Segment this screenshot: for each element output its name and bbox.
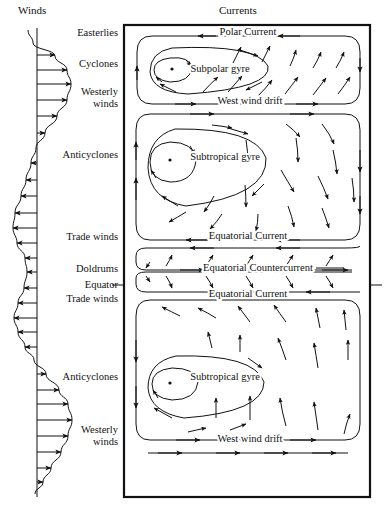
current-label-subtropical-gyre-north: Subtropical gyre xyxy=(190,151,260,162)
flow-arrow-field-subtropical-north xyxy=(169,124,354,231)
current-label-west-wind-drift-south: West wind drift xyxy=(217,433,282,444)
current-label-subpolar-gyre: Subpolar gyre xyxy=(190,63,250,74)
current-label-subtropical-gyre-south: Subtropical gyre xyxy=(190,371,260,382)
wind-profile-chart xyxy=(13,28,72,497)
winds-and-currents-figure: Polar CurrentPolar CurrentSubpolar gyreS… xyxy=(0,0,384,519)
current-label-equatorial-countercurrent: Equatorial Countercurrent xyxy=(203,262,313,273)
current-label-equatorial-current-south: Equatorial Current xyxy=(209,288,288,299)
current-label-west-wind-drift-north: West wind drift xyxy=(217,95,282,106)
subtropical-gyre-south-cell xyxy=(136,300,360,440)
flow-arrow-field-subtropical-south xyxy=(162,305,350,434)
current-label-polar-current: Polar Current xyxy=(220,26,277,37)
current-label-equatorial-current-north: Equatorial Current xyxy=(209,230,288,241)
